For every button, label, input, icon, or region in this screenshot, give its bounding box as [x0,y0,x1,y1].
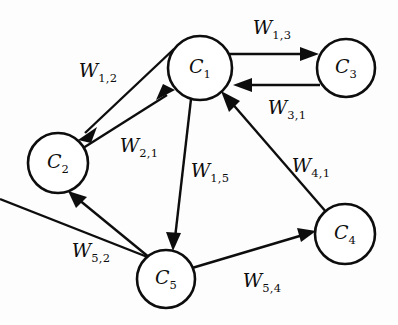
node-label-c1: C1 [189,55,211,81]
edge-c3-to-c1 [233,78,320,92]
node-label-c3: C3 [335,55,357,81]
node-label-c2: C2 [47,150,69,176]
edge-c5-to-c4 [192,228,316,268]
node-label-c4: C4 [334,221,356,247]
edge-label-w41: W4,1 [292,154,330,180]
edge-label-w13: W1,3 [253,16,291,42]
edge-c1-to-c5 [166,99,191,251]
edge-c1-to-c3 [229,47,319,61]
node-label-c5: C5 [155,266,177,292]
edge-label-w54: W5,4 [243,269,281,295]
edge-label-w12: W1,2 [79,59,117,85]
graph-diagram: C1 C2 C3 C4 C5 W1,2 W2,1 W1,3 W3,1 W1,5 … [0,0,398,325]
edge-label-w21: W2,1 [120,134,158,160]
edge-label-w52: W5,2 [72,239,110,265]
edge-label-w31: W3,1 [268,96,306,122]
edge-label-w15: W1,5 [191,159,229,185]
